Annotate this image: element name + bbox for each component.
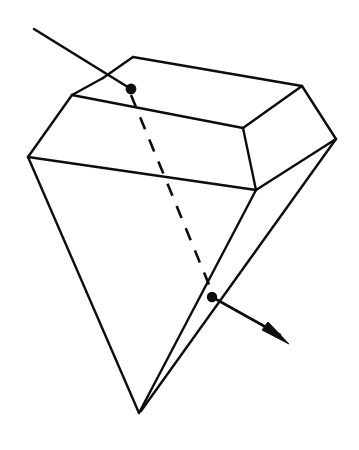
entry-point-marker (126, 84, 137, 95)
exit-point-marker (207, 292, 217, 302)
figure-canvas: Refraction through a gem-shaped solid (0, 0, 359, 450)
gem-refraction-diagram: Refraction through a gem-shaped solid (0, 0, 359, 450)
canvas-background (0, 0, 359, 450)
